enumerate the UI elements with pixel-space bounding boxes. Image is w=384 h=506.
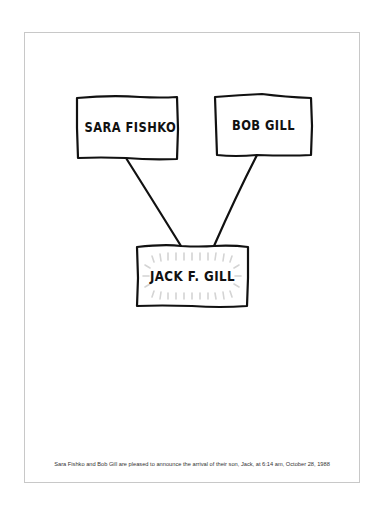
sara-fishko-label: SARA FISHKO bbox=[85, 119, 171, 135]
family-tree-drawing bbox=[0, 0, 384, 506]
announcement-caption: Sara Fishko and Bob Gill are pleased to … bbox=[37, 460, 346, 467]
connector-sara-jack bbox=[126, 158, 181, 246]
jack-f-gill-label: JACK F. GILL bbox=[145, 268, 239, 284]
connector-bob-jack bbox=[214, 155, 257, 246]
bob-gill-label: BOB GILL bbox=[222, 117, 304, 133]
